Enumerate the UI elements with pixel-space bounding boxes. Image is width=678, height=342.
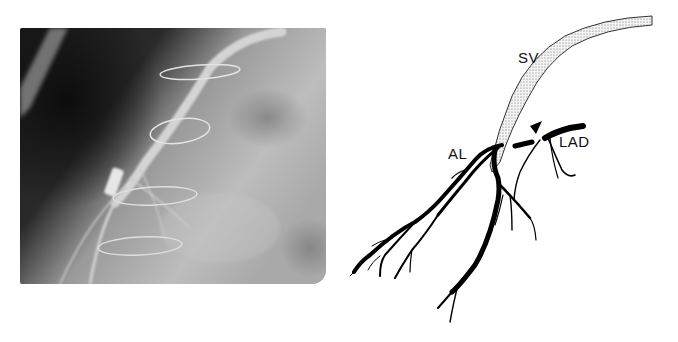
arrowhead-marker bbox=[530, 121, 542, 134]
descending-branch bbox=[438, 150, 536, 322]
vessel-drawing bbox=[340, 0, 678, 342]
xray-image bbox=[20, 28, 326, 284]
label-al: AL bbox=[448, 145, 467, 162]
label-sv: SV bbox=[518, 49, 539, 66]
angiogram-photo bbox=[20, 28, 326, 284]
vessel-diagram: SV AL LAD bbox=[340, 0, 678, 342]
figure: SV AL LAD bbox=[0, 0, 678, 342]
label-lad: LAD bbox=[559, 133, 590, 150]
